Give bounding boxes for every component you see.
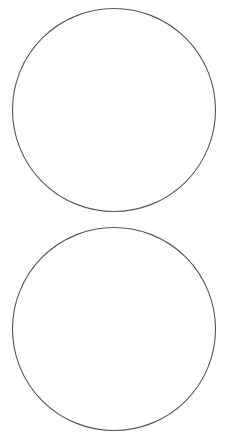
diagram-canvas bbox=[0, 0, 227, 435]
circle-top bbox=[13, 9, 216, 212]
circle-bottom bbox=[13, 228, 216, 431]
